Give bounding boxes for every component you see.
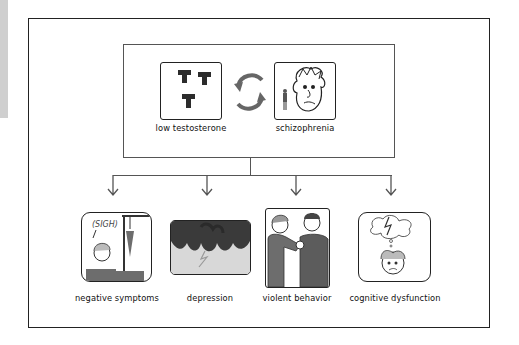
two-men-fighting-icon xyxy=(266,209,329,287)
storm-cloud-icon xyxy=(171,221,250,274)
depression-label: depression xyxy=(168,293,252,303)
schizophrenia-card xyxy=(274,62,336,120)
low-testosterone-card xyxy=(160,62,222,120)
thought-storm-head-icon xyxy=(359,213,430,281)
testosterone-molecules-icon xyxy=(161,63,221,119)
sighing-person-icon: (SIGH) xyxy=(82,213,151,281)
connector-arrows xyxy=(107,175,407,199)
schizophrenia-label: schizophrenia xyxy=(262,123,348,133)
violent-behavior-card xyxy=(265,208,330,288)
negative-symptoms-card: (SIGH) xyxy=(81,212,152,282)
cognitive-dysfunction-label: cognitive dysfunction xyxy=(346,293,444,303)
connector-trunk xyxy=(250,158,251,176)
sigh-speech: (SIGH) xyxy=(92,220,118,229)
confused-face-icon xyxy=(275,63,335,119)
cognitive-dysfunction-card xyxy=(358,212,431,282)
left-edge-strip xyxy=(0,0,8,118)
negative-symptoms-label: negative symptoms xyxy=(74,293,160,303)
low-testosterone-label: low testosterone xyxy=(150,123,232,133)
bidirectional-cycle-arrows-icon xyxy=(230,68,270,116)
violent-behavior-label: violent behavior xyxy=(252,293,342,303)
depression-card xyxy=(170,220,251,275)
